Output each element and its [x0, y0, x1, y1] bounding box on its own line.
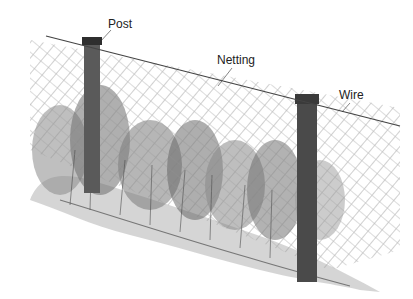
label-netting: Netting — [217, 54, 255, 66]
label-wire: Wire — [339, 89, 364, 101]
fence-illustration — [0, 0, 413, 299]
label-post: Post — [108, 18, 132, 30]
post-left — [82, 37, 102, 193]
post-leader — [100, 30, 111, 42]
post-right — [295, 94, 319, 282]
